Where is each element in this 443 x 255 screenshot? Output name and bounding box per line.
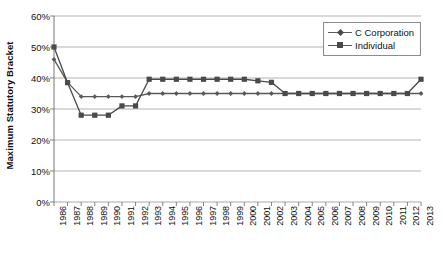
x-tick-label: 2013 xyxy=(425,206,435,226)
y-tick-label: 60% xyxy=(20,11,50,22)
data-point xyxy=(215,77,220,82)
series-line-individual xyxy=(54,47,421,115)
x-tick-label: 2007 xyxy=(343,206,353,226)
x-tick-label: 2003 xyxy=(289,206,299,226)
data-point xyxy=(323,91,328,96)
x-tick-label: 2005 xyxy=(316,206,326,226)
x-tick-label: 2006 xyxy=(330,206,340,226)
y-tick-label: 30% xyxy=(20,104,50,115)
y-tick-label: 40% xyxy=(20,73,50,84)
data-point xyxy=(215,91,220,96)
data-point xyxy=(418,77,423,82)
y-tick-label: 50% xyxy=(20,42,50,53)
data-point xyxy=(187,77,192,82)
data-point xyxy=(120,94,125,99)
data-point xyxy=(79,113,84,118)
data-point xyxy=(310,91,315,96)
x-tick-label: 1996 xyxy=(194,206,204,226)
y-tick-label: 10% xyxy=(20,166,50,177)
chart-container: Maximum Statutory Bracket 0%10%20%30%40%… xyxy=(0,0,443,255)
y-tick-label: 0% xyxy=(20,197,50,208)
data-point xyxy=(405,91,410,96)
data-point xyxy=(201,77,206,82)
x-tick-label: 1995 xyxy=(180,206,190,226)
x-tick-label: 2000 xyxy=(248,206,258,226)
legend-label-c-corporation: C Corporation xyxy=(352,27,414,38)
data-point xyxy=(92,94,97,99)
x-tick-label: 2002 xyxy=(275,206,285,226)
data-point xyxy=(188,91,193,96)
x-tick-label: 1998 xyxy=(221,206,231,226)
x-tick-label: 2009 xyxy=(371,206,381,226)
data-point xyxy=(296,91,301,96)
data-point xyxy=(160,91,165,96)
y-axis-title: Maximum Statutory Bracket xyxy=(0,0,18,210)
x-tick-label: 1987 xyxy=(72,206,82,226)
data-point xyxy=(106,94,111,99)
data-point xyxy=(269,91,274,96)
data-point xyxy=(255,91,260,96)
x-tick-label: 2010 xyxy=(384,206,394,226)
data-point xyxy=(174,91,179,96)
x-tick-label: 1999 xyxy=(235,206,245,226)
x-tick-label: 2012 xyxy=(411,206,421,226)
x-tick-label: 1986 xyxy=(58,206,68,226)
x-tick-label: 1992 xyxy=(140,206,150,226)
data-point xyxy=(119,103,124,108)
data-point xyxy=(147,91,152,96)
legend-marker-diamond-icon xyxy=(328,27,352,38)
y-tick-label: 20% xyxy=(20,135,50,146)
x-tick-label: 1988 xyxy=(85,206,95,226)
x-tick-label: 1989 xyxy=(99,206,109,226)
data-point xyxy=(106,113,111,118)
data-point xyxy=(133,103,138,108)
data-point xyxy=(228,77,233,82)
legend-item-individual: Individual xyxy=(328,39,414,52)
x-tick-label: 2001 xyxy=(262,206,272,226)
data-point xyxy=(378,91,383,96)
legend-label-individual: Individual xyxy=(352,40,395,51)
data-point xyxy=(350,91,355,96)
data-point xyxy=(419,91,424,96)
data-point xyxy=(174,77,179,82)
data-point xyxy=(242,91,247,96)
x-tick-label: 2008 xyxy=(357,206,367,226)
data-point xyxy=(147,77,152,82)
data-point xyxy=(269,80,274,85)
data-point xyxy=(201,91,206,96)
data-point xyxy=(282,91,287,96)
legend-item-c-corporation: C Corporation xyxy=(328,26,414,39)
data-point xyxy=(228,91,233,96)
y-axis-title-text: Maximum Statutory Bracket xyxy=(4,41,15,169)
x-tick-label: 1991 xyxy=(126,206,136,226)
data-point xyxy=(391,91,396,96)
legend-marker-square-icon xyxy=(328,40,352,51)
x-tick-label: 2004 xyxy=(303,206,313,226)
x-tick-label: 1997 xyxy=(208,206,218,226)
data-point xyxy=(364,91,369,96)
data-point xyxy=(242,77,247,82)
data-point xyxy=(51,44,56,49)
chart-legend: C Corporation Individual xyxy=(323,22,421,56)
x-tick-label: 1994 xyxy=(167,206,177,226)
data-point xyxy=(337,91,342,96)
x-tick-label: 1990 xyxy=(112,206,122,226)
data-point xyxy=(65,80,70,85)
y-axis-tick-labels: 0%10%20%30%40%50%60% xyxy=(18,16,50,202)
x-tick-label: 1993 xyxy=(153,206,163,226)
x-tick-label: 2011 xyxy=(398,206,408,225)
data-point xyxy=(160,77,165,82)
data-point xyxy=(92,113,97,118)
data-point xyxy=(133,94,138,99)
x-axis-tick-labels: 1986198719881989199019911992199319941995… xyxy=(54,206,421,252)
data-point xyxy=(255,78,260,83)
